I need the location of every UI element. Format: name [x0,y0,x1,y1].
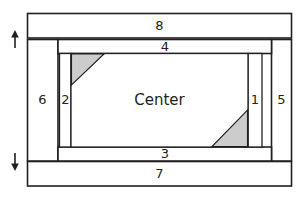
arrow-up-icon [11,30,19,48]
zone-7-label: 7 [155,166,163,181]
zone-4-label: 4 [161,39,169,54]
zone-6-label: 6 [38,92,46,107]
center-label: Center [134,91,185,109]
zone-2-label: 2 [61,92,69,107]
diagram-root: 8 4 6 2 1 5 3 7 Center [0,0,307,197]
arrow-down-icon [11,153,19,171]
zone-3-label: 3 [161,146,169,161]
zone-8-label: 8 [155,18,163,33]
arrow-group [11,30,19,171]
block-diagram-canvas: 8 4 6 2 1 5 3 7 Center [0,0,307,197]
zone-1-label: 1 [251,92,259,107]
zone-5-label: 5 [277,92,285,107]
